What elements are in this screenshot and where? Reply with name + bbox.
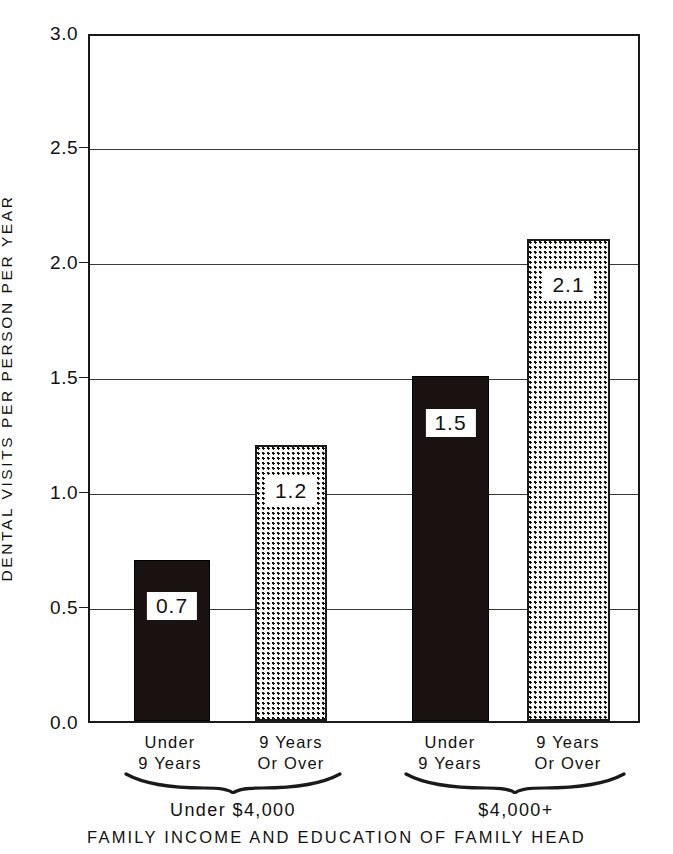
bar-value-label: 1.2 <box>266 477 316 505</box>
y-tick-label: 0.0 <box>50 712 78 733</box>
y-tick-label: 0.5 <box>50 597 78 618</box>
group-brace-left <box>124 772 342 794</box>
y-tick-label: 1.0 <box>50 482 78 503</box>
y-tick-1-0: 1.0 <box>50 482 78 504</box>
chart-root: 3.0 2.5 2.0 1.5 1.0 0.5 0.0 DENTAL VISIT… <box>0 0 673 854</box>
y-axis-title: DENTAL VISITS PER PERSON PER YEAR <box>0 195 16 582</box>
y-tick-label: 1.5 <box>50 367 78 388</box>
bar-under-9-years-high-income[interactable]: 1.5 <box>412 376 489 721</box>
y-tick-mark-1-5 <box>79 377 88 378</box>
y-tick-2-0: 2.0 <box>50 252 78 274</box>
y-tick-mark-2-5 <box>79 147 88 148</box>
category-label-bar-3: 9 Years Or Over <box>534 732 601 774</box>
y-tick-label: 2.0 <box>50 252 78 273</box>
y-tick-mark-2-0 <box>79 262 88 263</box>
category-line-1: Under <box>418 732 481 753</box>
bar-9-years-or-over-high-income[interactable]: 2.1 <box>527 239 610 721</box>
bar-value-label: 1.5 <box>425 409 475 437</box>
category-line-1: Under <box>138 732 201 753</box>
bar-value-label: 0.7 <box>147 592 197 620</box>
y-tick-1-5: 1.5 <box>50 367 78 389</box>
category-label-bar-1: 9 Years Or Over <box>257 732 324 774</box>
bar-value-label: 2.1 <box>543 271 593 299</box>
y-tick-3-0: 3.0 <box>50 23 78 45</box>
y-tick-label: 3.0 <box>50 23 78 44</box>
bar-under-9-years-low-income[interactable]: 0.7 <box>134 560 210 721</box>
x-axis-title: FAMILY INCOME AND EDUCATION OF FAMILY HE… <box>0 828 673 847</box>
category-label-bar-2: Under 9 Years <box>418 732 481 774</box>
group-brace-right <box>404 772 626 794</box>
category-label-bar-0: Under 9 Years <box>138 732 201 774</box>
group-label-4000-plus: $4,000+ <box>478 800 553 821</box>
group-label-under-4000: Under $4,000 <box>170 800 296 821</box>
y-tick-0-0: 0.0 <box>50 712 78 734</box>
y-tick-0-5: 0.5 <box>50 597 78 619</box>
gridline-2-5 <box>90 149 638 150</box>
y-tick-2-5: 2.5 <box>50 137 78 159</box>
y-tick-mark-1-0 <box>79 492 88 493</box>
y-tick-label: 2.5 <box>50 137 78 158</box>
bar-9-years-or-over-low-income[interactable]: 1.2 <box>255 445 327 721</box>
plot-area: 0.7 1.2 1.5 2.1 <box>88 34 640 723</box>
y-tick-mark-0-5 <box>79 607 88 608</box>
category-line-1: 9 Years <box>257 732 324 753</box>
category-line-1: 9 Years <box>534 732 601 753</box>
